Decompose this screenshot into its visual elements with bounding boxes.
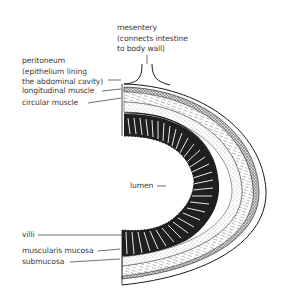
label-muscularis-mucosa: muscularis mucosa <box>22 246 93 257</box>
label-submucosa: submucosa <box>22 257 64 268</box>
label-mesentery-line3: to body wall) <box>117 44 188 55</box>
label-mesentery: mesentery (connects intestine to body wa… <box>117 23 188 55</box>
label-peritoneum-line1: peritoneum <box>22 56 103 67</box>
label-longitudinal-muscle: longitudinal muscle <box>22 86 94 97</box>
label-mesentery-line2: (connects intestine <box>117 34 188 45</box>
label-circular-muscle: circular muscle <box>22 98 78 109</box>
label-lumen: lumen <box>130 181 153 192</box>
label-peritoneum-line2: (epithelium lining <box>22 67 103 78</box>
intestine-diagram: mesentery (connects intestine to body wa… <box>0 0 288 296</box>
label-villi: villi <box>22 230 34 241</box>
mesentery-drawing <box>124 64 170 85</box>
label-mesentery-line1: mesentery <box>117 23 188 34</box>
label-peritoneum: peritoneum (epithelium lining the abdomi… <box>22 56 103 88</box>
